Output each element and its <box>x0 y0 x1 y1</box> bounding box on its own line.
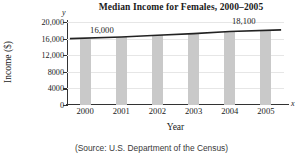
x-tick-label: 2003 <box>185 106 202 116</box>
y-tick-label: 8000 <box>48 67 64 76</box>
x-tick-label: 2001 <box>113 106 130 116</box>
x-tick-label: 2005 <box>257 106 274 116</box>
data-label: 18,100 <box>232 16 256 26</box>
y-tick-label: 4000 <box>48 84 64 93</box>
x-tick-label: 2002 <box>149 106 166 116</box>
source-caption: (Source: U.S. Department of the Census) <box>0 143 303 153</box>
chart-figure: Median Income for Females, 2000–2005 y x… <box>0 0 303 164</box>
y-axis-title: Income ($) <box>3 32 13 92</box>
chart-title: Median Income for Females, 2000–2005 <box>62 2 300 12</box>
y-tick-label: 20,000 <box>41 18 64 27</box>
x-axis-letter: x <box>291 99 295 108</box>
y-axis-letter: y <box>62 8 66 17</box>
x-tick-labels: 200020012002200320042005 <box>67 106 284 118</box>
x-axis-title: Year <box>67 122 284 132</box>
x-tick-label: 2004 <box>221 106 238 116</box>
y-tick-label: 12,000 <box>41 51 64 60</box>
x-tick-label: 2000 <box>76 106 93 116</box>
data-label: 16,000 <box>90 25 114 35</box>
y-tick-label: 16,000 <box>41 34 64 43</box>
y-tick-labels: 04000800012,00016,00020,000 <box>10 22 64 105</box>
